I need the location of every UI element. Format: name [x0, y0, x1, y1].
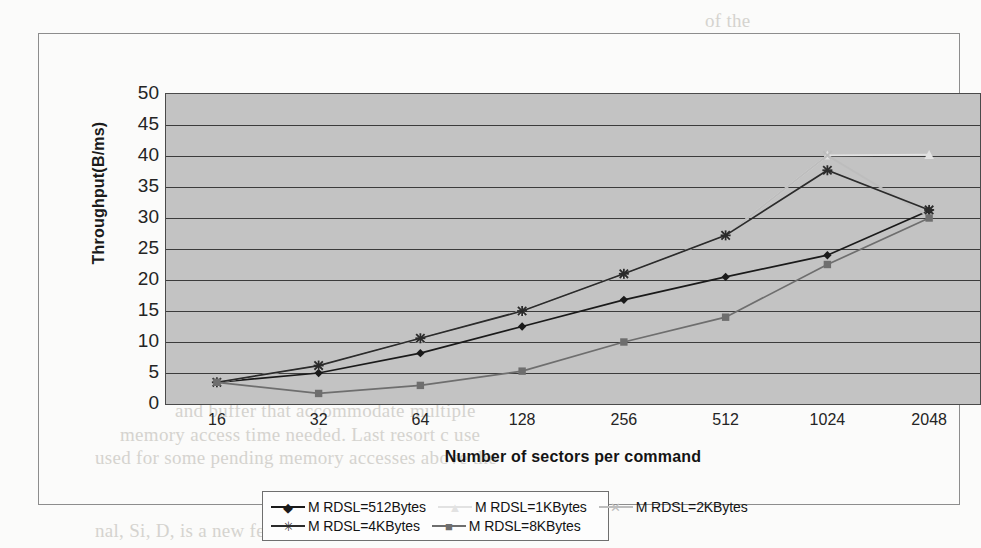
data-point-diamond [721, 273, 729, 281]
data-point-star [721, 230, 731, 240]
data-point-square [417, 382, 424, 389]
data-point-star [517, 306, 527, 316]
legend-label: M RDSL=1KBytes [475, 499, 587, 515]
legend-marker-star-icon: ✳ [283, 520, 294, 533]
y-axis-tick-0: 0 [117, 393, 159, 413]
y-axis-tick-15: 15 [117, 300, 159, 320]
y-axis-title: Throughput(B/ms) [90, 73, 108, 313]
series-1 [212, 150, 934, 387]
y-axis-tick-5: 5 [117, 362, 159, 382]
legend-marker-diamond-icon: ◆ [283, 501, 293, 514]
data-point-square [925, 214, 932, 221]
legend-label: M RDSL=4KBytes [308, 518, 420, 534]
legend-item-m-rdsl-4kbytes[interactable]: ✳M RDSL=4KBytes [271, 518, 420, 534]
y-axis-tick-50: 50 [117, 83, 159, 103]
x-axis-tick-2048: 2048 [911, 411, 947, 429]
data-point-square [518, 367, 525, 374]
legend-item-m-rdsl-1kbytes[interactable]: ▲M RDSL=1KBytes [438, 499, 587, 515]
data-point-star [619, 269, 629, 279]
data-point-diamond [518, 322, 526, 330]
y-axis-tick-10: 10 [117, 331, 159, 351]
x-axis-tick-128: 128 [509, 411, 536, 429]
data-point-square [620, 338, 627, 345]
data-point-square [315, 390, 322, 397]
legend-label: M RDSL=512Bytes [308, 499, 426, 515]
legend-swatch-diamond-icon: ◆ [271, 500, 305, 514]
legend-marker-triangle-icon: ▲ [449, 501, 462, 514]
data-point-diamond [416, 349, 424, 357]
legend-row-0: ◆M RDSL=512Bytes▲M RDSL=1KBytes✕M RDSL=2… [271, 499, 600, 515]
data-point-star [314, 361, 324, 371]
series-layer [166, 94, 980, 404]
legend-item-m-rdsl-512bytes[interactable]: ◆M RDSL=512Bytes [271, 499, 426, 515]
y-axis-tick-25: 25 [117, 238, 159, 258]
x-axis-tick-256: 256 [611, 411, 638, 429]
legend-swatch-star-icon: ✳ [271, 519, 305, 533]
series-0 [213, 206, 934, 386]
legend-item-m-rdsl-8kbytes[interactable]: ■M RDSL=8KBytes [432, 518, 581, 534]
series-2 [213, 151, 934, 386]
legend-swatch-triangle-icon: ▲ [438, 500, 472, 514]
y-axis-tick-45: 45 [117, 114, 159, 134]
data-point-square [824, 261, 831, 268]
legend-item-m-rdsl-2kbytes[interactable]: ✕M RDSL=2KBytes [599, 499, 748, 515]
legend-swatch-square-icon: ■ [432, 519, 466, 533]
chart-legend: ◆M RDSL=512Bytes▲M RDSL=1KBytes✕M RDSL=2… [262, 491, 609, 541]
x-axis-tick-64: 64 [411, 411, 429, 429]
data-point-star [924, 205, 934, 215]
data-point-square [722, 314, 729, 321]
data-point-star [415, 333, 425, 343]
x-axis-title: Number of sectors per command [165, 448, 981, 466]
legend-row-1: ✳M RDSL=4KBytes■M RDSL=8KBytes [271, 518, 600, 534]
x-axis-tick-16: 16 [208, 411, 226, 429]
data-point-star [822, 165, 832, 175]
y-axis-tick-labels: 05101520253035404550 [117, 82, 159, 416]
y-axis-tick-20: 20 [117, 269, 159, 289]
y-axis-tick-30: 30 [117, 207, 159, 227]
y-axis-tick-40: 40 [117, 145, 159, 165]
figure-frame: Throughput(B/ms) 05101520253035404550 16… [38, 33, 960, 505]
data-point-diamond [823, 251, 831, 259]
x-axis-tick-32: 32 [310, 411, 328, 429]
x-axis-tick-512: 512 [712, 411, 739, 429]
legend-swatch-x-icon: ✕ [599, 500, 633, 514]
scan-bleed-text-top: of the [705, 10, 751, 32]
legend-marker-square-icon: ■ [445, 520, 453, 533]
legend-marker-x-icon: ✕ [610, 501, 621, 514]
legend-rows: ◆M RDSL=512Bytes▲M RDSL=1KBytes✕M RDSL=2… [271, 499, 600, 534]
data-point-diamond [620, 296, 628, 304]
plot-area [165, 93, 981, 405]
legend-label: M RDSL=2KBytes [636, 499, 748, 515]
series-3 [212, 165, 934, 387]
x-axis-tick-1024: 1024 [810, 411, 846, 429]
data-point-square [213, 379, 220, 386]
y-axis-tick-35: 35 [117, 176, 159, 196]
x-axis-tick-labels: 16326412825651210242048 [165, 411, 981, 435]
legend-label: M RDSL=8KBytes [469, 518, 581, 534]
